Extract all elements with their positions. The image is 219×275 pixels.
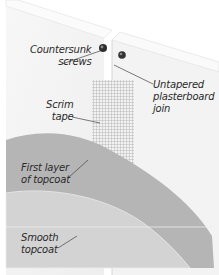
screw-right-icon bbox=[118, 51, 126, 59]
label-first-layer-topcoat: First layer of topcoat bbox=[21, 162, 70, 186]
plastering-diagram: Countersunk screws Untapered plasterboar… bbox=[0, 0, 219, 275]
label-scrim-tape: Scrim tape bbox=[46, 99, 73, 123]
screw-left-icon bbox=[99, 44, 107, 52]
label-untapered-join: Untapered plasterboard join bbox=[153, 79, 214, 115]
label-smooth-topcoat: Smooth topcoat bbox=[21, 232, 58, 256]
label-countersunk-screws: Countersunk screws bbox=[30, 44, 91, 68]
